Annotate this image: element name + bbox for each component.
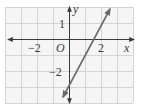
y-axis-label: y <box>72 2 79 16</box>
x-axis-label: x <box>123 41 130 55</box>
x-tick-label-2: 2 <box>98 41 104 55</box>
y-tick-label-1: 1 <box>59 17 65 31</box>
y-tick-label-neg2: −2 <box>49 65 62 79</box>
coordinate-graph: y x O −2 2 1 −2 <box>0 0 147 109</box>
origin-label: O <box>56 41 65 55</box>
x-tick-label-neg2: −2 <box>28 41 41 55</box>
